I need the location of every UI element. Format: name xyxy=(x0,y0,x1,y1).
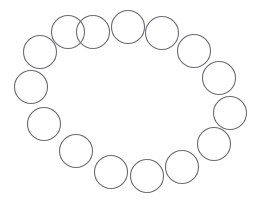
figure-canvas xyxy=(0,0,260,201)
ring-of-circles-figure xyxy=(0,0,260,201)
figure-background xyxy=(0,0,260,201)
